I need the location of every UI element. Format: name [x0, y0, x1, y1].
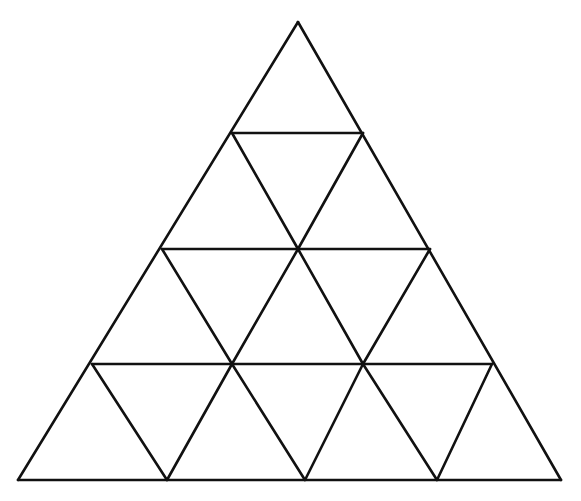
inner-line-12	[437, 364, 492, 480]
inner-line-3	[162, 249, 232, 364]
inner-line-4	[232, 249, 298, 364]
left-edge	[18, 22, 298, 480]
triangle-lines	[18, 22, 561, 480]
inner-line-9	[232, 364, 305, 480]
inner-line-7	[92, 364, 167, 480]
inner-line-11	[363, 364, 437, 480]
triangle-diagram	[0, 0, 581, 501]
inner-line-6	[363, 249, 430, 364]
inner-line-10	[305, 364, 363, 480]
inner-line-2	[298, 133, 363, 249]
inner-line-8	[167, 364, 232, 480]
inner-line-1	[232, 133, 298, 249]
inner-line-5	[298, 249, 363, 364]
